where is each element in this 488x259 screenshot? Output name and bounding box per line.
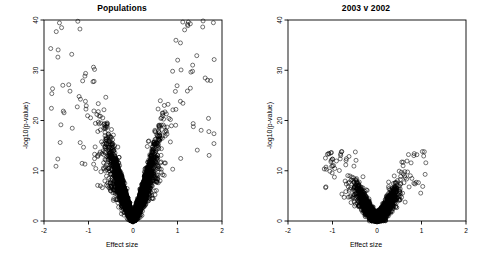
data-points	[49, 19, 216, 223]
y-tick-label: 20	[32, 117, 39, 125]
y-axis-title-right: -log10(p-value)	[266, 101, 273, 148]
scatter-plot-2003-v-2002: -2-1012010203040	[244, 0, 488, 259]
x-tick-label: 2	[464, 227, 468, 234]
plot-frame	[44, 20, 222, 221]
x-tick-label: -2	[41, 227, 47, 234]
panel-2003-v-2002: 2003 v 2002 -2-1012010203040 Effect size…	[244, 0, 488, 259]
data-points	[322, 149, 428, 223]
x-axis-title-left: Effect size	[0, 241, 244, 248]
y-tick-label: 30	[32, 66, 39, 74]
x-axis-title-right: Effect size	[244, 241, 488, 248]
x-tick-label: -2	[285, 227, 291, 234]
y-tick-label: 0	[276, 219, 283, 223]
x-tick-label: -1	[86, 227, 92, 234]
y-tick-label: 0	[32, 219, 39, 223]
x-tick-label: 0	[375, 227, 379, 234]
x-tick-label: 1	[420, 227, 424, 234]
y-tick-label: 40	[276, 16, 283, 24]
y-axis-title-left: -log10(p-value)	[22, 101, 29, 148]
y-tick-label: 10	[32, 167, 39, 175]
scatter-plot-populations: -2-1012010203040	[0, 0, 244, 259]
y-tick-label: 40	[32, 16, 39, 24]
x-tick-label: 0	[131, 227, 135, 234]
x-tick-label: -1	[330, 227, 336, 234]
y-tick-label: 10	[276, 167, 283, 175]
y-tick-label: 20	[276, 117, 283, 125]
panel-populations: Populations -2-1012010203040 Effect size…	[0, 0, 244, 259]
axes	[285, 20, 467, 225]
volcano-plot-figure: Populations -2-1012010203040 Effect size…	[0, 0, 488, 259]
plot-frame	[288, 20, 466, 221]
x-tick-label: 2	[220, 227, 224, 234]
x-tick-label: 1	[176, 227, 180, 234]
y-tick-label: 30	[276, 66, 283, 74]
